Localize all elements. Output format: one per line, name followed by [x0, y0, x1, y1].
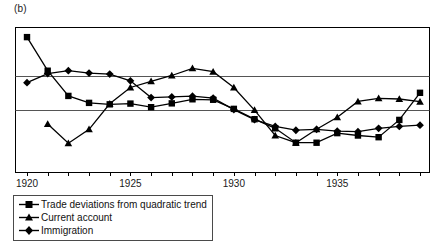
data-point: [127, 100, 133, 106]
data-point: [375, 134, 381, 140]
legend-item-immigration[interactable]: Immigration: [18, 224, 207, 237]
data-point: [169, 100, 175, 106]
legend-label-trade: Trade deviations from quadratic trend: [40, 199, 207, 210]
square-marker-icon: [18, 199, 40, 210]
legend-item-current-account[interactable]: Current account: [18, 211, 207, 224]
legend-item-trade[interactable]: Trade deviations from quadratic trend: [18, 198, 207, 211]
data-point: [86, 100, 92, 106]
x-tick-label-1935: 1935: [326, 178, 348, 189]
x-tick-label-1930: 1930: [223, 178, 245, 189]
legend-label-current-account: Current account: [40, 212, 112, 223]
figure-panel-b: (b) 1920192519301935 Trade deviations fr…: [0, 0, 442, 250]
x-tick-label-1920: 1920: [16, 178, 38, 189]
data-point: [24, 34, 30, 40]
triangle-marker-icon: [18, 212, 40, 223]
data-point: [148, 104, 154, 110]
data-point: [417, 90, 423, 96]
data-point: [65, 93, 71, 99]
diamond-marker-icon: [18, 225, 40, 236]
x-tick-label-1925: 1925: [119, 178, 141, 189]
legend-label-immigration: Immigration: [40, 225, 93, 236]
data-point: [396, 117, 402, 123]
chart-legend: Trade deviations from quadratic trend Cu…: [13, 195, 213, 241]
data-point: [313, 140, 319, 146]
